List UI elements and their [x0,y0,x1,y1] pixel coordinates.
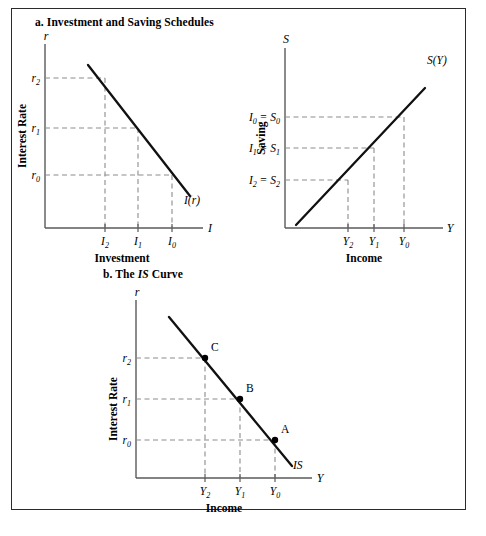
saving-y-axis-symbol: S [283,32,289,46]
is-point-c-marker [202,355,208,361]
is-curve [169,317,292,466]
investment-curve-label: I(r) [183,194,200,207]
investment-x-axis-symbol: I [207,221,213,235]
is-ytick-r0: r0 [123,434,131,449]
is-curve-label: IS [292,459,303,471]
is-xtick-y2: Y2 [200,485,210,500]
saving-xtick-y0: Y0 [399,235,409,250]
saving-curve-label: S(Y) [427,54,447,67]
investment-y-axis-title: Interest Rate [16,104,28,168]
investment-x-axis-title: Investment [95,252,150,264]
saving-xtick-y1: Y1 [369,235,379,250]
is-y-axis-symbol: r [135,285,140,299]
investment-ytick-r1: r1 [32,122,40,137]
saving-xtick-y2: Y2 [343,235,353,250]
investment-ytick-r0: r0 [32,169,40,184]
saving-x-axis-title: Income [346,252,382,264]
saving-x-axis-symbol: Y [447,221,455,235]
is-point-a-marker [272,437,278,443]
is-y-axis-title: Interest Rate [107,377,119,441]
is-x-axis-symbol: Y [317,471,325,485]
is-point-a-label: A [281,423,290,435]
saving-ytick-i2s2: I2 = S2 [248,174,280,189]
saving-curve [296,88,425,225]
investment-xtick-i1: I1 [133,235,142,250]
is-x-axis-title: Income [206,502,242,514]
investment-ytick-r2: r2 [32,72,40,87]
is-xtick-y0: Y0 [270,485,280,500]
investment-xtick-i2: I2 [100,235,109,250]
investment-y-axis-symbol: r [44,29,49,43]
is-xtick-y1: Y1 [235,485,245,500]
is-point-b-label: B [246,382,254,394]
investment-xtick-i0: I0 [167,235,176,250]
investment-curve [88,65,190,196]
is-point-c-label: C [211,341,219,353]
saving-y-axis-title: Saving [255,121,268,154]
is-ytick-r1: r1 [123,393,131,408]
is-ytick-r2: r2 [123,352,131,367]
is-point-b-marker [237,396,243,402]
investment-schedule-chart: r I I(r) r2 r1 r0 I2 I1 I0 Investment In… [0,0,486,536]
